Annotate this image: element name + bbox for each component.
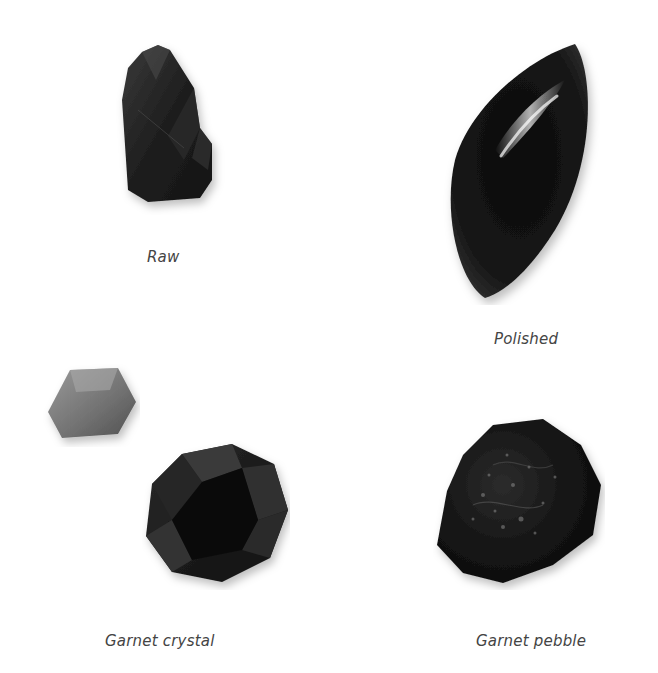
raw-stone-image [108,40,228,215]
garnet-pebble-image [433,415,605,590]
raw-caption: Raw [147,248,179,266]
polished-stone-image [435,40,600,305]
polished-caption: Polished [494,330,558,348]
garnet-crystal-small-image [40,362,140,447]
garnet-pebble-caption: Garnet pebble [476,632,586,650]
garnet-crystal-large-image [142,440,290,590]
garnet-crystal-caption: Garnet crystal [105,632,215,650]
